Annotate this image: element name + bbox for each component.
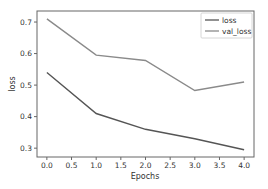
x-axis-label: Epochs (131, 172, 160, 181)
x-tick-label: 4.0 (238, 161, 250, 170)
y-tick-label: 0.5 (20, 81, 32, 90)
x-tick-label: 2.0 (140, 161, 152, 170)
y-axis-ticks: 0.30.40.50.60.7 (20, 18, 37, 153)
chart-svg: 0.30.40.50.60.7 0.00.51.01.52.02.53.03.5… (0, 0, 268, 189)
x-tick-label: 0.0 (41, 161, 53, 170)
legend-label-loss: loss (222, 16, 237, 25)
loss-chart: 0.30.40.50.60.7 0.00.51.01.52.02.53.03.5… (0, 0, 268, 189)
legend: loss val_loss (201, 13, 252, 38)
legend-label-val-loss: val_loss (222, 27, 251, 36)
x-tick-label: 0.5 (66, 161, 78, 170)
y-axis-label: loss (8, 76, 17, 91)
x-tick-label: 3.0 (189, 161, 201, 170)
x-tick-label: 1.5 (115, 161, 127, 170)
y-tick-label: 0.6 (20, 49, 32, 58)
y-tick-label: 0.7 (20, 18, 32, 27)
y-tick-label: 0.4 (20, 112, 32, 121)
x-tick-label: 3.5 (214, 161, 226, 170)
x-tick-label: 2.5 (164, 161, 176, 170)
y-tick-label: 0.3 (20, 144, 32, 153)
x-axis-ticks: 0.00.51.01.52.02.53.03.54.0 (41, 157, 250, 170)
data-lines (47, 19, 244, 150)
series-line-loss (47, 73, 244, 150)
x-tick-label: 1.0 (90, 161, 102, 170)
